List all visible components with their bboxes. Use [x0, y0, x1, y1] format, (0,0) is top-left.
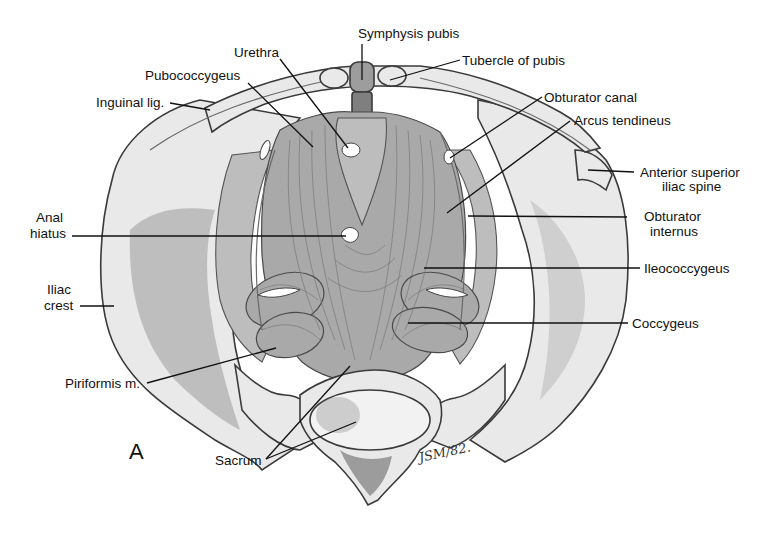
levator-ani [216, 112, 497, 382]
label-pubococcygeus: Pubococcygeus [145, 68, 241, 83]
label-tubercle-of-pubis: Tubercle of pubis [462, 53, 565, 68]
pelvic-floor-illustration: Symphysis pubis Tubercle of pubis Urethr… [0, 0, 776, 535]
label-obturator-internus-line1: Obturator [644, 209, 702, 224]
panel-letter: A [129, 439, 144, 464]
label-iliac-crest-line1: Iliac [47, 282, 71, 297]
label-symphysis-pubis: Symphysis pubis [358, 26, 460, 41]
sacrum-bone [300, 370, 442, 505]
label-inguinal-lig: Inguinal lig. [96, 95, 164, 110]
label-anterior-superior-iliac-spine-line1: Anterior superior [640, 165, 740, 180]
label-obturator-canal: Obturator canal [544, 90, 637, 105]
label-anal-hiatus-line1: Anal [36, 210, 63, 225]
label-obturator-internus-line2: internus [650, 224, 698, 239]
anal-hiatus-opening [341, 228, 358, 243]
label-sacrum: Sacrum [215, 453, 262, 468]
label-anal-hiatus-line2: hiatus [30, 226, 66, 241]
label-iliac-crest-line2: crest [44, 298, 74, 313]
label-piriformis-m: Piriformis m. [65, 376, 140, 391]
label-ileococcygeus: Ileococcygeus [644, 261, 730, 276]
label-coccygeus: Coccygeus [632, 316, 699, 331]
label-arcus-tendineus: Arcus tendineus [574, 113, 671, 128]
label-anterior-superior-iliac-spine-line2: iliac spine [662, 179, 721, 194]
label-urethra: Urethra [234, 45, 280, 60]
urethra-opening [342, 143, 360, 157]
